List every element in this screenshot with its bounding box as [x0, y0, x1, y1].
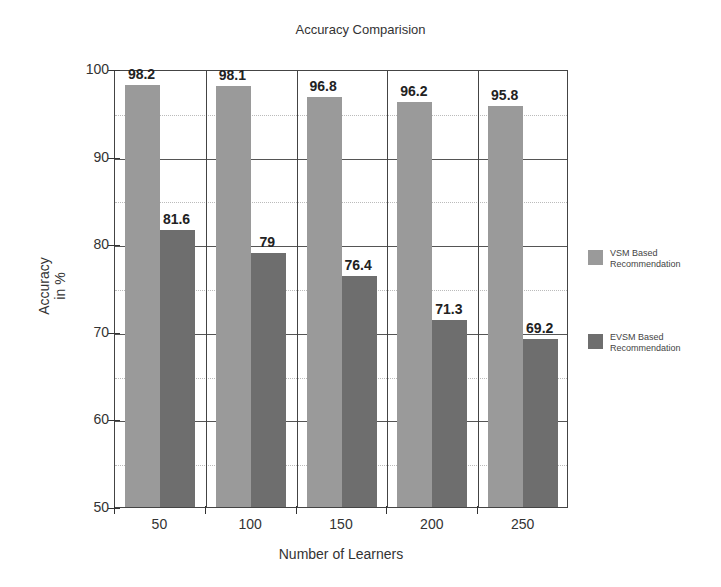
category-separator: [206, 71, 207, 507]
category-separator: [387, 71, 388, 507]
x-axis-label: Number of Learners: [114, 546, 568, 562]
legend-label-vsm: VSM Based Recommendation: [610, 248, 720, 270]
x-tick-mark: [386, 506, 387, 514]
legend-label-evsm: EVSM Based Recommendation: [610, 332, 720, 354]
y-axis-label-line-1: Accuracy: [36, 246, 52, 326]
x-tick-label: 50: [129, 516, 189, 532]
y-tick-label: 90: [69, 149, 109, 165]
x-tick-label: 150: [311, 516, 371, 532]
data-label: 98.1: [202, 67, 262, 83]
y-tick-label: 80: [69, 236, 109, 252]
data-label: 96.2: [384, 83, 444, 99]
category-separator: [478, 71, 479, 507]
bar-vsm-100: [216, 86, 251, 507]
y-tick-label: 60: [69, 411, 109, 427]
plot-area: [114, 70, 568, 508]
data-label: 96.8: [293, 78, 353, 94]
y-tick-mark: [108, 158, 120, 159]
legend-swatch-vsm: [588, 250, 603, 265]
legend-item-vsm: VSM Based Recommendation: [588, 248, 718, 288]
data-label: 69.2: [510, 320, 570, 336]
data-label: 81.6: [147, 211, 207, 227]
bar-evsm-150: [342, 276, 377, 507]
y-axis-label-line-2: in %: [52, 246, 68, 326]
y-tick-mark: [108, 70, 120, 71]
x-tick-mark: [296, 506, 297, 514]
bar-evsm-100: [251, 253, 286, 507]
bar-evsm-250: [523, 339, 558, 507]
x-tick-label: 100: [220, 516, 280, 532]
data-label: 79: [237, 234, 297, 250]
category-separator: [297, 71, 298, 507]
y-tick-label: 50: [69, 499, 109, 515]
y-tick-mark: [108, 508, 120, 509]
y-tick-mark: [108, 333, 120, 334]
data-label: 98.2: [112, 66, 172, 82]
bar-evsm-200: [432, 320, 467, 507]
y-axis-label: Accuracy in %: [36, 246, 68, 326]
x-tick-label: 250: [493, 516, 553, 532]
legend-swatch-evsm: [588, 334, 603, 349]
y-tick-label: 70: [69, 324, 109, 340]
data-label: 71.3: [419, 301, 479, 317]
legend-item-evsm: EVSM Based Recommendation: [588, 332, 718, 372]
x-tick-label: 200: [402, 516, 462, 532]
bar-vsm-50: [125, 85, 160, 507]
y-tick-mark: [108, 245, 120, 246]
bar-vsm-250: [488, 106, 523, 507]
x-tick-mark: [477, 506, 478, 514]
data-label: 76.4: [328, 257, 388, 273]
legend: VSM Based Recommendation EVSM Based Reco…: [588, 248, 718, 416]
x-tick-mark: [205, 506, 206, 514]
data-label: 95.8: [475, 87, 535, 103]
bar-vsm-150: [307, 97, 342, 507]
y-tick-mark: [108, 420, 120, 421]
y-tick-label: 100: [69, 61, 109, 77]
chart-title: Accuracy Comparision: [0, 22, 721, 37]
bar-evsm-50: [160, 230, 195, 507]
